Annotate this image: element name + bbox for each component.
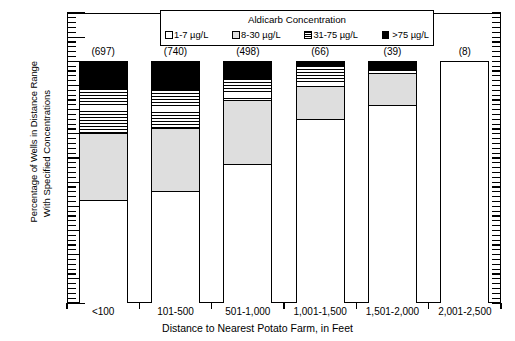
y-tick-minor-right — [492, 17, 501, 18]
y-tick-minor-right — [492, 133, 501, 134]
y-tick-minor-right — [492, 177, 501, 178]
bar-1 — [79, 61, 128, 303]
bar-segment-white — [369, 105, 416, 303]
y-tick-minor-right — [492, 215, 501, 216]
legend-label: 8-30 µg/L — [241, 30, 280, 40]
y-tick-minor-right — [492, 196, 501, 197]
bar-segment-hatched — [297, 65, 344, 86]
y-tick-minor — [67, 17, 76, 18]
y-tick-minor — [67, 273, 76, 274]
y-tick-minor — [67, 240, 76, 241]
y-tick-minor-right — [492, 293, 501, 294]
y-tick-minor-right — [492, 22, 501, 23]
y-axis-title-line2: With Specified Concentrations — [41, 24, 52, 284]
y-tick-minor-right — [492, 235, 501, 236]
y-tick-minor-right — [492, 240, 501, 241]
y-tick-minor — [67, 138, 76, 139]
y-tick-minor-right — [492, 186, 501, 187]
y-tick-minor-right — [492, 254, 501, 255]
y-tick-minor-right — [492, 264, 501, 265]
bar-segment-hatched — [369, 69, 416, 74]
y-tick-minor — [67, 249, 76, 250]
y-tick-minor-right — [492, 12, 501, 13]
y-tick-minor — [67, 104, 76, 105]
y-tick-minor — [67, 114, 76, 115]
y-tick-minor-right — [492, 288, 501, 289]
y-tick-minor — [67, 22, 76, 23]
y-tick-minor-right — [492, 244, 501, 245]
y-tick-minor-right — [492, 66, 501, 67]
bar-count-label: (39) — [363, 46, 423, 57]
y-tick-minor — [67, 283, 76, 284]
bar-segment-hatched — [152, 89, 199, 128]
y-tick-minor-right — [492, 162, 501, 163]
y-tick-minor-right — [492, 230, 501, 231]
legend-item-3: 31-75 µg/L — [304, 30, 358, 40]
bar-segment-white — [80, 200, 127, 303]
legend-items: 1-7 µg/L8-30 µg/L31-75 µg/L>75 µg/L — [165, 30, 429, 40]
y-tick-minor-right — [492, 114, 501, 115]
y-tick-minor-right — [492, 128, 501, 129]
bar-segment-gray — [80, 133, 127, 201]
bar-2 — [151, 61, 200, 303]
x-axis-title: Distance to Nearest Potato Farm, in Feet — [0, 322, 515, 334]
y-tick-minor — [67, 70, 76, 71]
bar-count-label: (740) — [146, 46, 206, 57]
legend-swatch-white — [165, 31, 173, 39]
y-tick-minor-right — [492, 32, 501, 33]
y-tick-minor-right — [492, 61, 501, 62]
bar-segment-black — [80, 61, 127, 88]
y-tick-minor — [67, 269, 76, 270]
legend-title: Aldicarb Concentration — [161, 14, 433, 25]
bar-segment-gray — [224, 100, 271, 164]
bar-segment-black — [297, 61, 344, 65]
y-tick-minor — [67, 259, 76, 260]
legend-swatch-hatched — [304, 31, 312, 39]
y-tick-minor-right — [492, 95, 501, 96]
y-tick-minor — [67, 196, 76, 197]
bar-segment-white — [152, 191, 199, 303]
y-tick-minor — [67, 75, 76, 76]
y-tick-minor-right — [492, 211, 501, 212]
y-tick-minor-right — [492, 153, 501, 154]
y-tick-minor — [67, 211, 76, 212]
y-tick-minor — [67, 153, 76, 154]
y-tick-minor — [67, 177, 76, 178]
y-tick-minor — [67, 264, 76, 265]
y-tick-minor-right — [492, 41, 501, 42]
y-tick-minor-right — [492, 259, 501, 260]
y-tick-minor-right — [492, 283, 501, 284]
legend-item-4: >75 µg/L — [382, 30, 429, 40]
y-tick-minor — [67, 80, 76, 81]
bar-5 — [368, 61, 417, 303]
y-tick-minor-right — [492, 157, 501, 158]
bar-segment-white — [441, 61, 488, 303]
bar-segment-black — [369, 61, 416, 68]
y-tick-minor-right — [492, 90, 501, 91]
y-tick-minor-right — [492, 138, 501, 139]
bar-6 — [440, 61, 489, 303]
y-tick-minor-right — [492, 249, 501, 250]
bar-segment-black — [224, 61, 271, 78]
y-tick-minor-right — [492, 167, 501, 168]
y-tick-minor-right — [492, 273, 501, 274]
y-tick-minor — [67, 143, 76, 144]
y-tick-minor-right — [492, 124, 501, 125]
legend-swatch-gray — [232, 31, 240, 39]
y-tick-minor-right — [492, 269, 501, 270]
bar-segment-gray — [369, 73, 416, 104]
y-tick-minor-right — [492, 119, 501, 120]
y-tick-minor — [67, 41, 76, 42]
bar-segment-gray — [297, 86, 344, 120]
y-tick-minor — [67, 288, 76, 289]
y-tick-minor — [67, 124, 76, 125]
y-tick-minor-right — [492, 191, 501, 192]
y-tick-minor-right — [492, 27, 501, 28]
y-tick-major — [67, 12, 85, 13]
y-tick-minor — [67, 128, 76, 129]
y-tick-minor-right — [492, 75, 501, 76]
chart-container: Percentage of Wells in Distance Range Wi… — [0, 0, 515, 341]
y-tick-minor — [67, 95, 76, 96]
y-tick-minor — [67, 225, 76, 226]
legend-item-1: 1-7 µg/L — [165, 30, 208, 40]
